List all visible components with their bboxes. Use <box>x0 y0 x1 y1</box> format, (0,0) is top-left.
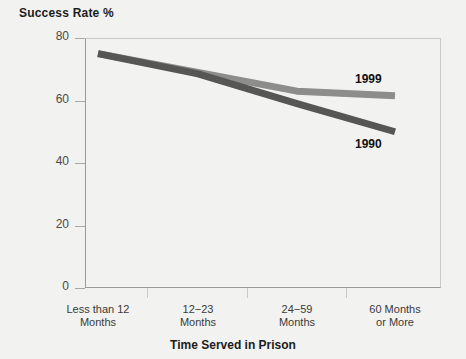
line-chart: Success Rate % 80 60 40 20 0 Less than 1… <box>0 0 466 359</box>
series-layer <box>0 0 466 359</box>
series-end-label-1999: 1999 <box>355 72 382 86</box>
series-end-label-1990: 1990 <box>355 137 382 151</box>
